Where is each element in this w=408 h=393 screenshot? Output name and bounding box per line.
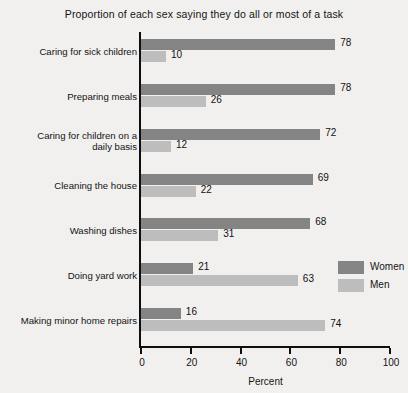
bar-value-label: 26 bbox=[211, 94, 222, 105]
bar-group: 6922 bbox=[141, 167, 390, 212]
category-label: Caring for children on adaily basis bbox=[5, 130, 137, 153]
x-tick-label: 0 bbox=[128, 357, 156, 368]
x-axis-line bbox=[139, 346, 390, 348]
x-tick bbox=[240, 348, 242, 354]
legend-item-women: Women bbox=[338, 260, 404, 276]
x-tick-label: 20 bbox=[178, 357, 206, 368]
bar-group: 7810 bbox=[141, 32, 390, 77]
bar-men bbox=[141, 230, 218, 241]
bar-value-label: 16 bbox=[186, 306, 197, 317]
bar-women bbox=[141, 308, 181, 319]
bar-men bbox=[141, 320, 325, 331]
legend-label: Men bbox=[370, 279, 389, 290]
bar-men bbox=[141, 186, 196, 197]
bar-women bbox=[141, 263, 193, 274]
x-tick bbox=[289, 348, 291, 354]
bar-chart: Proportion of each sex saying they do al… bbox=[0, 0, 408, 393]
bar-value-label: 22 bbox=[201, 184, 212, 195]
bar-value-label: 12 bbox=[176, 139, 187, 150]
bar-group: 1674 bbox=[141, 301, 390, 346]
bar-women bbox=[141, 129, 320, 140]
bar-group: 6831 bbox=[141, 211, 390, 256]
legend-swatch bbox=[338, 261, 364, 274]
category-label: Preparing meals bbox=[5, 91, 137, 103]
bar-group: 7826 bbox=[141, 77, 390, 122]
bar-men bbox=[141, 141, 171, 152]
bar-value-label: 78 bbox=[340, 37, 351, 48]
x-axis-title: Percent bbox=[141, 376, 390, 387]
legend-item-men: Men bbox=[338, 278, 404, 294]
bar-value-label: 63 bbox=[303, 273, 314, 284]
category-label: Caring for sick children bbox=[5, 46, 137, 58]
x-tick-label: 60 bbox=[277, 357, 305, 368]
bar-men bbox=[141, 96, 206, 107]
bar-men bbox=[141, 275, 298, 286]
bar-men bbox=[141, 51, 166, 62]
x-tick-label: 40 bbox=[228, 357, 256, 368]
bar-value-label: 74 bbox=[330, 318, 341, 329]
plot-area: 7810782672126922683121631674 02040608010… bbox=[141, 32, 390, 346]
x-tick bbox=[190, 348, 192, 354]
chart-title: Proportion of each sex saying they do al… bbox=[0, 8, 408, 20]
bar-group: 7212 bbox=[141, 122, 390, 167]
legend-swatch bbox=[338, 279, 364, 292]
bar-value-label: 69 bbox=[318, 172, 329, 183]
category-label: Washing dishes bbox=[5, 225, 137, 237]
bar-women bbox=[141, 174, 313, 185]
bar-value-label: 21 bbox=[198, 261, 209, 272]
category-label: Cleaning the house bbox=[5, 180, 137, 192]
x-tick bbox=[389, 348, 391, 354]
bar-value-label: 68 bbox=[315, 216, 326, 227]
bar-women bbox=[141, 84, 335, 95]
bar-value-label: 72 bbox=[325, 127, 336, 138]
bar-value-label: 31 bbox=[223, 228, 234, 239]
chart-legend: WomenMen bbox=[338, 260, 404, 296]
category-label: Making minor home repairs bbox=[5, 315, 137, 327]
legend-label: Women bbox=[370, 261, 404, 272]
category-axis-labels: Caring for sick childrenPreparing mealsC… bbox=[0, 32, 137, 346]
x-tick bbox=[140, 348, 142, 354]
x-tick-label: 80 bbox=[327, 357, 355, 368]
bar-value-label: 78 bbox=[340, 82, 351, 93]
x-tick-label: 100 bbox=[377, 357, 405, 368]
category-label: Doing yard work bbox=[5, 270, 137, 282]
x-tick bbox=[339, 348, 341, 354]
bar-value-label: 10 bbox=[171, 49, 182, 60]
